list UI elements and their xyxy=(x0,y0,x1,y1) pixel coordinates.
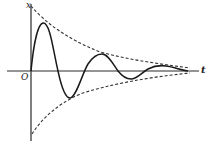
y-axis-label: x xyxy=(26,1,31,10)
damped-oscillation-diagram xyxy=(0,0,211,143)
oscillation-curve xyxy=(31,23,188,98)
x-axis-label: t xyxy=(201,65,206,75)
lower-envelope-curve xyxy=(32,73,190,134)
origin-label: O xyxy=(21,73,28,82)
